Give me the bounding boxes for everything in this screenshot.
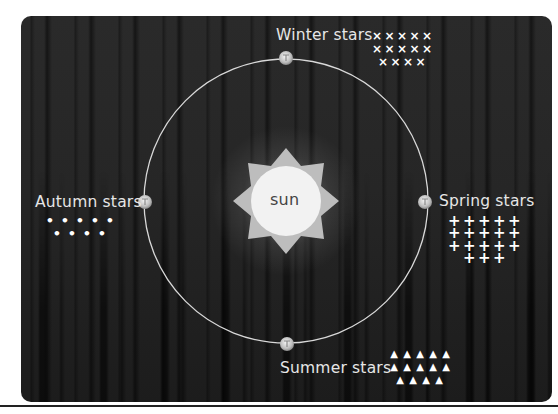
earth-summer-marker xyxy=(280,337,294,351)
cross-x-symbol: × xyxy=(385,30,395,42)
spring-stars-label: Spring stars xyxy=(439,194,534,210)
cross-x-symbol: × xyxy=(372,43,382,55)
earth-winter-marker xyxy=(279,51,293,65)
cross-x-symbol: × xyxy=(397,30,407,42)
dot-symbol: • xyxy=(67,227,77,240)
cross-x-symbol: × xyxy=(410,30,420,42)
plus-symbol: + xyxy=(493,251,503,266)
triangle-symbol: ▲ xyxy=(408,375,418,385)
triangle-symbol: ▲ xyxy=(428,349,438,359)
triangle-symbol: ▲ xyxy=(402,349,412,359)
cross-x-symbol: × xyxy=(410,43,420,55)
triangle-symbol: ▲ xyxy=(428,362,438,372)
earth-spring-marker xyxy=(418,195,432,209)
cross-x-symbol: × xyxy=(372,30,382,42)
dot-symbol: • xyxy=(97,227,107,240)
cross-x-symbol: × xyxy=(403,56,413,68)
cross-x-symbol: × xyxy=(378,56,388,68)
dot-symbol: • xyxy=(82,227,92,240)
autumn-stars-label: Autumn stars xyxy=(35,195,142,211)
triangle-symbol: ▲ xyxy=(402,362,412,372)
cross-x-symbol: × xyxy=(422,30,432,42)
triangle-symbol: ▲ xyxy=(434,375,444,385)
cross-x-symbol: × xyxy=(391,56,401,68)
triangle-symbol: ▲ xyxy=(389,362,399,372)
cross-x-symbol: × xyxy=(416,56,426,68)
triangle-symbol: ▲ xyxy=(415,362,425,372)
triangle-symbol: ▲ xyxy=(441,349,451,359)
triangle-symbol: ▲ xyxy=(389,349,399,359)
summer-stars-label: Summer stars xyxy=(280,361,391,377)
cross-x-symbol: × xyxy=(397,43,407,55)
triangle-symbol: ▲ xyxy=(441,362,451,372)
cross-x-symbol: × xyxy=(422,43,432,55)
triangle-symbol: ▲ xyxy=(421,375,431,385)
triangle-symbol: ▲ xyxy=(415,349,425,359)
plus-symbol: + xyxy=(463,251,473,266)
sun-label: sun xyxy=(270,192,299,208)
plus-symbol: + xyxy=(448,239,458,254)
triangle-symbol: ▲ xyxy=(395,375,405,385)
dot-symbol: • xyxy=(52,227,62,240)
winter-stars-label: Winter stars xyxy=(276,28,373,44)
cross-x-symbol: × xyxy=(385,43,395,55)
dot-symbol: • xyxy=(105,214,115,227)
plus-symbol: + xyxy=(478,251,488,266)
plus-symbol: + xyxy=(508,239,518,254)
